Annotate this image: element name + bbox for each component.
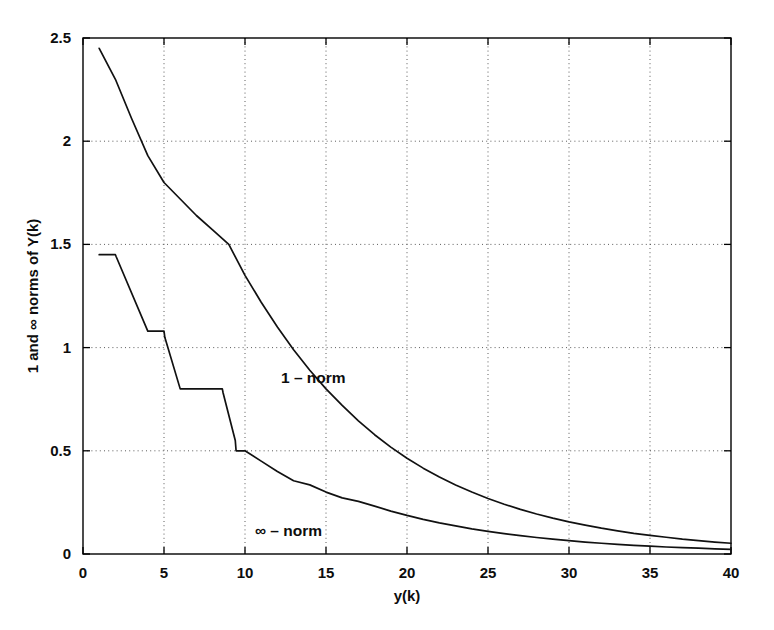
x-tick-label: 40 [723, 564, 740, 581]
tick-marks-layer [83, 38, 731, 554]
x-tick-label: 30 [561, 564, 578, 581]
x-tick-label: 5 [160, 564, 168, 581]
x-tick-label: 25 [480, 564, 497, 581]
curve-inf-norm [99, 255, 731, 550]
figure-container: 051015202530354000.511.522.5 y(k) 1 and … [0, 0, 774, 630]
x-tick-label: 35 [642, 564, 659, 581]
tick-labels-layer: 051015202530354000.511.522.5 [50, 29, 739, 581]
y-tick-label: 0 [63, 545, 71, 562]
axes-box [83, 38, 731, 554]
y-tick-label: 1.5 [50, 235, 71, 252]
chart-canvas: 051015202530354000.511.522.5 y(k) 1 and … [0, 0, 774, 630]
y-tick-label: 0.5 [50, 442, 71, 459]
y-tick-label: 2 [63, 132, 71, 149]
curve-1-norm [99, 48, 731, 543]
data-curves-layer [99, 48, 731, 549]
y-tick-label: 1 [63, 339, 71, 356]
series-annotation-inf-norm: ∞ – norm [255, 522, 322, 539]
x-tick-label: 20 [399, 564, 416, 581]
x-tick-label: 15 [318, 564, 335, 581]
series-annotation-1-norm: 1 – norm [281, 369, 346, 386]
x-axis-title: y(k) [394, 587, 421, 604]
grid-layer [83, 38, 731, 554]
x-tick-label: 10 [237, 564, 254, 581]
y-axis-title: 1 and ∞ norms of Y(k) [24, 219, 41, 374]
y-tick-label: 2.5 [50, 29, 71, 46]
x-tick-label: 0 [79, 564, 87, 581]
plot-frame [83, 38, 731, 554]
